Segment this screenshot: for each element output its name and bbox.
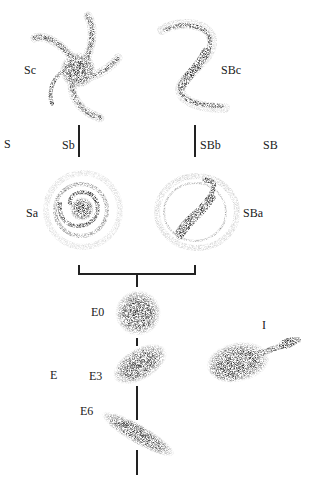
diagram-graphics [0,0,325,481]
label-sb: Sb [62,139,75,151]
label-e0: E0 [91,306,104,318]
galaxy-sc [35,16,118,118]
galaxy-e3 [106,335,174,393]
label-irregular: I [262,319,266,331]
hubble-tuning-fork-diagram: Sc SBc S Sb SBb SB Sa SBa E0 I E E3 E6 [0,0,325,481]
galaxy-irregular [203,335,299,387]
galaxy-sba [157,176,237,248]
galaxy-sa [46,173,120,247]
label-spiral-branch: S [4,138,11,150]
label-e3: E3 [89,370,102,382]
label-sbb: SBb [200,139,221,151]
galaxy-e0 [115,290,161,336]
label-sba: SBa [243,207,263,219]
label-elliptical-branch: E [50,369,57,381]
label-sc: Sc [24,64,36,76]
label-e6: E6 [80,405,93,417]
label-barred-branch: SB [263,139,278,151]
label-sbc: SBc [221,64,241,76]
tuning-fork-bracket [79,265,195,287]
label-sa: Sa [26,207,38,219]
galaxy-sbc [162,24,225,108]
